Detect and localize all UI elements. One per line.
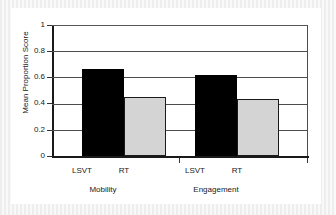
plot-area xyxy=(52,25,308,156)
x-axis-line xyxy=(52,156,309,158)
bar-mobility-rt xyxy=(124,97,166,156)
bar-mobility-lsvt xyxy=(82,69,124,156)
bar-engagement-lsvt xyxy=(195,75,237,156)
y-tick-label-0: 0 xyxy=(11,152,45,160)
x-axis-end-tick xyxy=(307,158,308,163)
bar-engagement-rt xyxy=(237,99,279,156)
x-label-engagement-rt: RT xyxy=(216,166,258,175)
x-group-label-engagement: Engagement xyxy=(175,185,257,194)
chart-canvas: 1 0.8 0.6 0.4 0.2 0 Mean Proportion Scor… xyxy=(11,8,321,204)
x-label-engagement-lsvt: LSVT xyxy=(174,166,216,175)
x-label-mobility-lsvt: LSVT xyxy=(61,166,103,175)
x-axis-group-separator xyxy=(179,158,180,163)
y-axis-title: Mean Proportion Score xyxy=(21,13,30,133)
x-group-label-mobility: Mobility xyxy=(62,185,144,194)
gridline-0.8 xyxy=(52,51,308,52)
x-label-mobility-rt: RT xyxy=(103,166,145,175)
gridline-1.0 xyxy=(52,25,308,26)
screenshot-root: 1 0.8 0.6 0.4 0.2 0 Mean Proportion Scor… xyxy=(0,0,336,215)
